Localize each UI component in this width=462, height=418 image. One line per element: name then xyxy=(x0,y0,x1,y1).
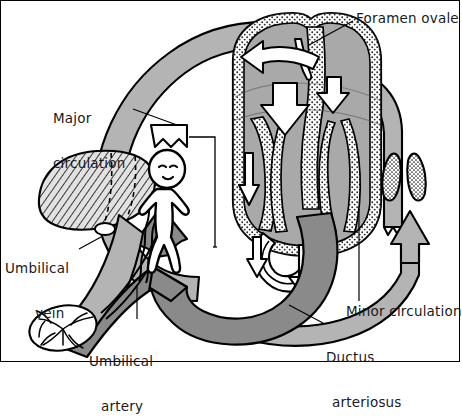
label-umbilical-artery-line2: artery xyxy=(89,399,153,414)
fetus-bracket xyxy=(189,137,217,247)
label-ductus-arteriosus-line1: Ductus xyxy=(326,350,402,365)
label-foramen-ovale: Foramen ovale xyxy=(356,11,459,26)
label-major-circulation-line1: Major xyxy=(53,111,126,126)
label-umbilical-artery-line1: Umbilical xyxy=(89,354,153,369)
leader-umbilical-vein xyxy=(79,237,101,249)
label-minor-circulation: Minor circulation xyxy=(346,304,462,319)
label-ductus-arteriosus: Ductus arteriosus xyxy=(326,320,402,418)
label-major-circulation-line2: circulation xyxy=(53,156,126,171)
label-major-circulation: Major circulation xyxy=(53,81,126,201)
label-umbilical-artery: Umbilical artery xyxy=(89,324,153,418)
label-umbilical-vein-line2: vein xyxy=(5,306,69,321)
arch-notch xyxy=(151,125,187,147)
lungs xyxy=(382,154,426,201)
label-umbilical-vein-line1: Umbilical xyxy=(5,261,69,276)
label-umbilical-vein: Umbilical vein xyxy=(5,231,69,351)
label-ductus-arteriosus-line2: arteriosus xyxy=(326,395,402,410)
